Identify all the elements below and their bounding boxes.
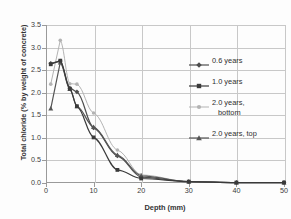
gridline-horizontal bbox=[47, 160, 285, 161]
legend-item[interactable]: 2.0 years, top bbox=[188, 129, 288, 139]
y-tick-label: 2.0 bbox=[14, 88, 41, 97]
legend-label: 0.6 years bbox=[212, 56, 242, 65]
chart-container: Total chloride (% by weight of concrete)… bbox=[0, 0, 291, 219]
y-tick-label: 3.5 bbox=[14, 20, 41, 29]
x-tick-mark bbox=[141, 183, 142, 187]
chart-legend: 0.6 years1.0 years2.0 years,bottom2.0 ye… bbox=[188, 56, 288, 150]
x-axis-title: Depth (mm) bbox=[46, 203, 284, 212]
x-tick-label: 50 bbox=[272, 186, 291, 195]
gridline-horizontal bbox=[47, 48, 285, 49]
legend-item[interactable]: 1.0 years bbox=[188, 77, 288, 87]
legend-label: 2.0 years, top bbox=[212, 129, 257, 138]
gridline-vertical bbox=[142, 25, 143, 183]
x-tick-label: 30 bbox=[177, 186, 201, 195]
x-tick-label: 20 bbox=[129, 186, 153, 195]
x-tick-mark bbox=[284, 183, 285, 187]
legend-item[interactable]: 2.0 years,bottom bbox=[188, 98, 288, 118]
legend-marker-icon bbox=[188, 98, 210, 108]
legend-label: 1.0 years bbox=[212, 77, 242, 86]
y-tick-label: 1.5 bbox=[14, 110, 41, 119]
x-tick-mark bbox=[94, 183, 95, 187]
y-tick-label: 1.0 bbox=[14, 133, 41, 142]
x-tick-label: 0 bbox=[34, 186, 58, 195]
gridline-vertical bbox=[95, 25, 96, 183]
legend-item[interactable]: 0.6 years bbox=[188, 56, 288, 66]
y-tick-label: 0.5 bbox=[14, 155, 41, 164]
legend-label: 2.0 years, bbox=[212, 98, 244, 107]
legend-marker-icon bbox=[188, 56, 210, 66]
gridline-horizontal bbox=[47, 25, 285, 26]
x-tick-mark bbox=[236, 183, 237, 187]
legend-marker-icon bbox=[188, 129, 210, 139]
x-tick-label: 10 bbox=[82, 186, 106, 195]
x-tick-mark bbox=[189, 183, 190, 187]
legend-marker-icon bbox=[188, 77, 210, 87]
y-tick-label: 3.0 bbox=[14, 43, 41, 52]
x-tick-label: 40 bbox=[224, 186, 248, 195]
legend-label-line2: bottom bbox=[218, 108, 241, 117]
y-tick-label: 2.5 bbox=[14, 65, 41, 74]
x-tick-mark bbox=[46, 183, 47, 187]
